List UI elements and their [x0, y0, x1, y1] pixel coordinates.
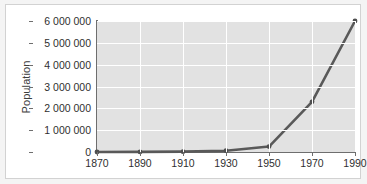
chart-card: Population 01 000 0002 000 0003 000 0004… [5, 4, 361, 179]
x-axis-tick-mark [140, 152, 141, 156]
plot-area [97, 21, 355, 152]
y-axis-tick-label: 3 000 000 [33, 81, 91, 92]
y-axis-tick-label: 4 000 000 [33, 59, 91, 70]
x-axis-tick-mark [97, 152, 98, 156]
x-axis-tick-label-group: 1870189019101930195019701990 [97, 152, 355, 180]
y-axis-tick-mark [29, 108, 33, 109]
y-axis-tick-mark [29, 65, 33, 66]
y-axis-tick-mark [29, 43, 33, 44]
x-axis-tick-mark [269, 152, 270, 156]
figure-root: Population 01 000 0002 000 0003 000 0004… [0, 0, 367, 184]
x-axis-tick-mark [183, 152, 184, 156]
y-axis-tick-label: 1 000 000 [33, 125, 91, 136]
y-axis-tick-mark [29, 152, 33, 153]
y-axis-tick-label: 6 000 000 [33, 16, 91, 27]
y-axis-tick-label: 2 000 000 [33, 103, 91, 114]
x-axis-tick-mark [312, 152, 313, 156]
gridline-vertical [183, 21, 184, 152]
x-axis-tick-mark [355, 152, 356, 156]
y-axis-tick-label: 5 000 000 [33, 38, 91, 49]
x-axis-tick-label: 1990 [328, 158, 367, 169]
gridline-vertical [226, 21, 227, 152]
y-axis-tick-mark [29, 87, 33, 88]
y-axis-tick-label-group: 01 000 0002 000 0003 000 0004 000 0005 0… [33, 21, 91, 152]
y-axis-tick-mark [29, 130, 33, 131]
gridline-vertical [140, 21, 141, 152]
gridline-vertical [312, 21, 313, 152]
y-axis-tick-label: 0 [33, 147, 91, 158]
x-axis-tick-mark [226, 152, 227, 156]
gridline-vertical [269, 21, 270, 152]
y-axis-tick-mark [29, 21, 33, 22]
gridline-vertical [355, 21, 356, 152]
